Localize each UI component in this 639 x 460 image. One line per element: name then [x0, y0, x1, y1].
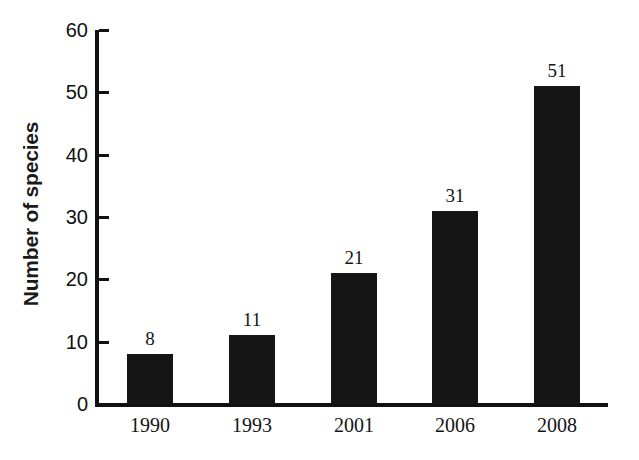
y-axis-tick-label-wrap: 40 [38, 145, 88, 165]
x-axis-tick-label: 2001 [309, 415, 399, 435]
y-axis-tick-label: 10 [42, 332, 88, 352]
y-axis-tick [99, 278, 109, 281]
y-axis-tick-label-wrap: 0 [38, 394, 88, 414]
y-axis-tick-label-wrap: 10 [38, 332, 88, 352]
y-axis-tick [99, 216, 109, 219]
bar [331, 273, 377, 404]
y-axis-tick-label: 40 [42, 145, 88, 165]
x-axis-tick-label: 2008 [512, 415, 602, 435]
x-axis-tick-label: 1990 [105, 415, 195, 435]
y-axis-tick-label-wrap: 30 [38, 207, 88, 227]
x-axis-tick-label: 1993 [207, 415, 297, 435]
y-axis-tick-label-wrap: 50 [38, 82, 88, 102]
bar [432, 211, 478, 404]
y-axis-tick-label-wrap: 20 [38, 269, 88, 289]
y-axis-tick [99, 29, 109, 32]
bar-value-label: 21 [311, 248, 397, 267]
bar-value-label: 11 [209, 310, 295, 329]
bar-chart-figure: Number of species 6050403020100 81990111… [0, 0, 639, 460]
x-axis-tick-label: 2006 [410, 415, 500, 435]
bar [229, 335, 275, 404]
bar [127, 354, 173, 404]
y-axis-tick-label: 60 [42, 20, 88, 40]
y-axis-tick-label: 20 [42, 269, 88, 289]
bar-value-label: 8 [107, 329, 193, 348]
y-axis-tick-label: 30 [42, 207, 88, 227]
y-axis-tick-label: 0 [42, 394, 88, 414]
y-axis-tick [99, 154, 109, 157]
bar [534, 86, 580, 404]
bar-value-label: 51 [514, 61, 600, 80]
y-axis-tick-label: 50 [42, 82, 88, 102]
y-axis-tick-label-wrap: 60 [38, 20, 88, 40]
y-axis-tick [99, 91, 109, 94]
bar-value-label: 31 [412, 186, 498, 205]
